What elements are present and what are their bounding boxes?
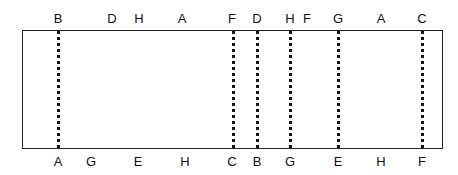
top-label: D [104, 12, 120, 25]
bottom-label: H [177, 155, 193, 168]
bottom-label: E [130, 155, 146, 168]
top-label: D [249, 12, 265, 25]
top-label: A [373, 12, 389, 25]
bottom-label: B [249, 155, 265, 168]
top-label: C [414, 12, 430, 25]
top-label: H [282, 12, 298, 25]
bottom-label: C [224, 155, 240, 168]
dotted-line-2 [232, 31, 235, 148]
bottom-label: F [414, 155, 430, 168]
dotted-line-5 [337, 31, 340, 148]
bottom-label: G [282, 155, 298, 168]
bottom-label: G [83, 155, 99, 168]
top-label: F [299, 12, 315, 25]
dotted-line-4 [289, 31, 292, 148]
dotted-line-6 [421, 31, 424, 148]
top-label: A [174, 12, 190, 25]
dotted-line-1 [57, 31, 60, 148]
bottom-label: A [50, 155, 66, 168]
bottom-label: E [330, 155, 346, 168]
top-label: G [330, 12, 346, 25]
top-label: H [131, 12, 147, 25]
bottom-label: H [373, 155, 389, 168]
top-label: F [224, 12, 240, 25]
top-label: B [50, 12, 66, 25]
dotted-line-3 [256, 31, 259, 148]
